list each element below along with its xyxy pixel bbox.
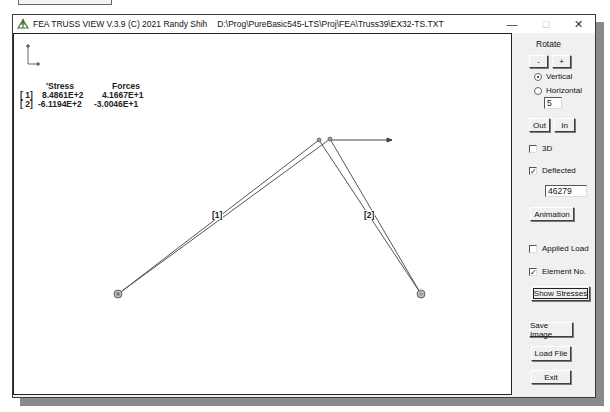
force-value: -3.0046E+1 (94, 100, 154, 109)
close-icon: ✕ (574, 18, 583, 31)
checkbox-applied-load-label: Applied Load (542, 244, 589, 253)
checkbox-3d[interactable]: 3D (529, 144, 552, 153)
checkbox-checked-icon: ✓ (529, 167, 537, 175)
radio-vertical-label: Vertical (546, 72, 572, 81)
maximize-icon: □ (543, 18, 550, 30)
deflection-scale-input[interactable]: 46279 (545, 185, 587, 197)
maximize-button[interactable]: □ (529, 15, 563, 33)
checkbox-unchecked-icon (529, 145, 537, 153)
window-title: FEA TRUSS VIEW V.3.9 (C) 2021 Randy Shih (33, 19, 207, 29)
rotate-label: Rotate (536, 39, 561, 49)
rotate-step-input[interactable]: 5 (544, 97, 562, 109)
show-stresses-label: Show Stresses (534, 289, 587, 298)
zoom-in-button[interactable]: In (554, 118, 575, 132)
app-window: FEA TRUSS VIEW V.3.9 (C) 2021 Randy Shih… (12, 14, 596, 398)
title-bar[interactable]: FEA TRUSS VIEW V.3.9 (C) 2021 Randy Shih… (13, 15, 595, 33)
deflected-members (118, 139, 421, 294)
axis-icon (27, 45, 40, 66)
minimize-icon: — (507, 18, 518, 30)
radio-horizontal-label: Horizontal (546, 86, 582, 95)
close-button[interactable]: ✕ (561, 15, 595, 33)
checkbox-element-no-label: Element No. (542, 267, 586, 276)
checkbox-applied-load[interactable]: Applied Load (529, 244, 589, 253)
radio-selected-icon (534, 73, 542, 81)
show-stresses-button[interactable]: Show Stresses (531, 286, 590, 301)
rotate-plus-button[interactable]: + (552, 55, 571, 68)
radio-unselected-icon (534, 87, 542, 95)
checkbox-deflected-label: Deflected (542, 166, 576, 175)
truss-canvas[interactable]: 'Stress Forces [ 1] 8.4861E+2 4.1667E+1 … (13, 33, 512, 395)
exit-label: Exit (544, 373, 557, 382)
element-label-1: [1] (211, 210, 223, 220)
background-window-edge (18, 0, 112, 5)
rotate-minus-label: - (537, 57, 540, 66)
save-image-label: Save Image (530, 321, 572, 339)
file-path: D:\Prog\PureBasic545-LTS\Proj\FEA\Truss3… (217, 19, 443, 29)
table-row: [ 2] -6.1194E+2 -3.0046E+1 (20, 100, 172, 109)
stress-value: -6.1194E+2 (38, 100, 98, 109)
control-panel: Rotate - + Vertical Horizontal 5 Out In … (512, 33, 595, 395)
element-label-2: [2] (363, 210, 375, 220)
checkbox-checked-icon: ✓ (529, 268, 537, 276)
checkbox-unchecked-icon (529, 245, 537, 253)
rotate-plus-label: + (559, 57, 564, 66)
checkbox-3d-label: 3D (542, 144, 552, 153)
zoom-out-label: Out (533, 121, 546, 130)
zoom-in-label: In (561, 121, 568, 130)
truss-app-icon (17, 18, 29, 30)
radio-horizontal[interactable]: Horizontal (534, 86, 582, 95)
load-arrow-icon (330, 138, 392, 142)
node-icons (114, 137, 425, 298)
element-id: [ 2] (20, 100, 38, 109)
save-image-button[interactable]: Save Image (529, 322, 573, 337)
animation-label: Animation (534, 210, 570, 219)
load-file-button[interactable]: Load File (531, 346, 571, 361)
radio-vertical[interactable]: Vertical (534, 72, 572, 81)
checkbox-element-no[interactable]: ✓ Element No. (529, 267, 586, 276)
exit-button[interactable]: Exit (531, 370, 571, 384)
zoom-out-button[interactable]: Out (529, 118, 550, 132)
rotate-minus-button[interactable]: - (529, 55, 548, 68)
stress-forces-table: 'Stress Forces [ 1] 8.4861E+2 4.1667E+1 … (20, 82, 172, 109)
checkbox-deflected[interactable]: ✓ Deflected (529, 166, 576, 175)
minimize-button[interactable]: — (495, 15, 529, 33)
load-file-label: Load File (535, 349, 568, 358)
animation-button[interactable]: Animation (530, 207, 574, 221)
